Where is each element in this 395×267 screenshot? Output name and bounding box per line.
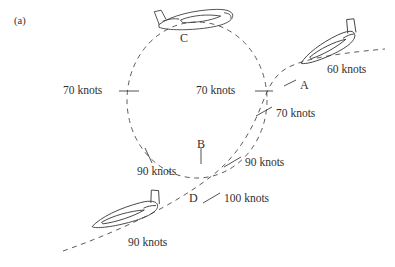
speed-label-track-lower-right: 90 knots — [245, 157, 284, 169]
panel-label: (a) — [14, 16, 26, 27]
speed-label-inbound-track: 100 knots — [224, 193, 269, 205]
track-dashed-path — [63, 49, 385, 251]
aircraft-lower-left-icon — [88, 189, 164, 231]
aircraft-a-icon — [293, 17, 363, 67]
point-label-b: B — [197, 138, 205, 150]
aircraft-track-group — [63, 49, 385, 251]
tick-point-a — [284, 80, 296, 86]
tick-track-lower-right — [224, 157, 241, 167]
speed-label-left-circle: 70 knots — [63, 85, 102, 97]
speed-label-center-circle: 70 knots — [196, 85, 235, 97]
point-label-c: C — [180, 32, 188, 44]
speed-label-aircraft-a: 60 knots — [327, 64, 366, 76]
flight-path-diagram — [0, 0, 395, 267]
speed-label-track-right: 70 knots — [276, 108, 315, 120]
figure-panel-a: (a) 70 knots 70 knots 70 knots 90 knots … — [0, 0, 395, 267]
aircraft-c-icon — [154, 5, 233, 32]
point-label-d: D — [189, 192, 198, 204]
speed-label-bottom-left-circle: 90 knots — [137, 166, 176, 178]
tick-track-right — [256, 107, 272, 116]
tick-bottom-left-circle — [145, 148, 152, 163]
tick-marks-group — [119, 80, 296, 203]
speed-label-aircraft-lower-left: 90 knots — [128, 237, 167, 249]
tick-point-d — [203, 193, 220, 203]
point-label-a: A — [300, 79, 309, 91]
